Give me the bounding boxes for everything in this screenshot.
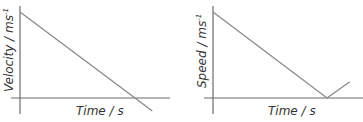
y-axis-label-text: Speed / ms: [195, 21, 209, 88]
y-axis-label: Speed / ms-1: [195, 14, 209, 88]
y-axis-label: Velocity / ms-1: [2, 8, 16, 92]
y-axis-label-superscript: -1: [2, 8, 10, 15]
velocity-line: [20, 12, 152, 111]
y-axis-label-superscript: -1: [195, 14, 203, 21]
charts-canvas: Time / s Velocity / ms-1 Time / s Speed …: [0, 0, 363, 122]
speed-line: [213, 12, 350, 98]
x-axis-label: Time / s: [268, 104, 316, 118]
velocity-time-chart: Time / s Velocity / ms-1: [2, 6, 170, 118]
x-axis-label: Time / s: [76, 104, 124, 118]
speed-time-chart: Time / s Speed / ms-1: [195, 6, 363, 118]
y-axis-label-text: Velocity / ms: [2, 15, 16, 92]
